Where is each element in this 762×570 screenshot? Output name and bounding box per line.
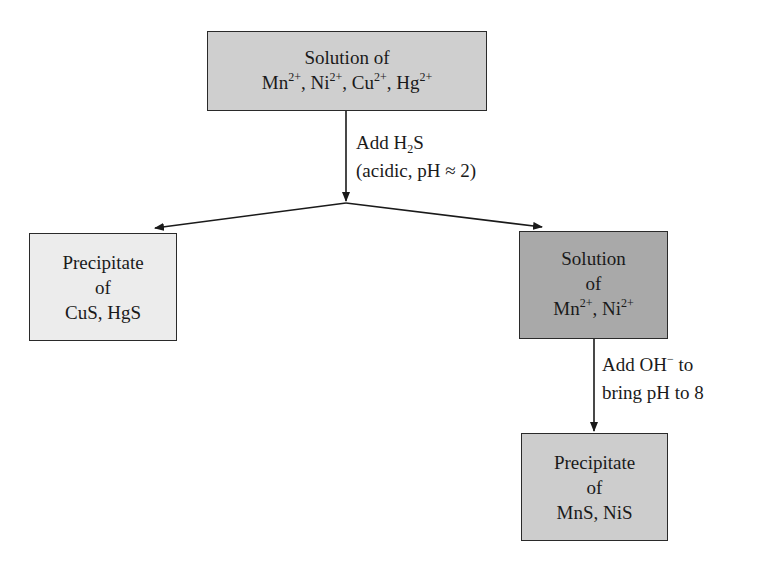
solution-2-ions: Mn2+, Ni2+ xyxy=(553,296,633,324)
step1-line1: Add H2S xyxy=(356,130,476,158)
start-line1: Solution of xyxy=(305,45,390,70)
precipitate-2-line2: of xyxy=(587,475,603,500)
precipitate-2-box: Precipitate of MnS, NiS xyxy=(521,433,668,541)
solution-2-line2: of xyxy=(586,271,602,296)
precipitate-2-line3: MnS, NiS xyxy=(556,500,632,525)
precipitate-1-line2: of xyxy=(95,275,111,300)
start-solution-box: Solution of Mn2+, Ni2+, Cu2+, Hg2+ xyxy=(207,31,487,111)
step1-label: Add H2S (acidic, pH ≈ 2) xyxy=(356,130,476,184)
solution-2-box: Solution of Mn2+, Ni2+ xyxy=(519,231,668,339)
step2-line2: bring pH to 8 xyxy=(602,380,704,406)
precipitate-2-line1: Precipitate xyxy=(554,450,635,475)
precipitate-1-line1: Precipitate xyxy=(62,250,143,275)
arrow-to-solution-2 xyxy=(346,203,542,227)
step1-line2: (acidic, pH ≈ 2) xyxy=(356,158,476,184)
precipitate-1-line3: CuS, HgS xyxy=(65,300,141,325)
arrow-to-precipitate-1 xyxy=(155,203,346,228)
precipitate-1-box: Precipitate of CuS, HgS xyxy=(29,233,177,341)
step2-label: Add OH− to bring pH to 8 xyxy=(602,352,704,406)
step2-line1: Add OH− to xyxy=(602,352,704,380)
start-ions: Mn2+, Ni2+, Cu2+, Hg2+ xyxy=(262,70,432,98)
solution-2-line1: Solution xyxy=(561,246,625,271)
